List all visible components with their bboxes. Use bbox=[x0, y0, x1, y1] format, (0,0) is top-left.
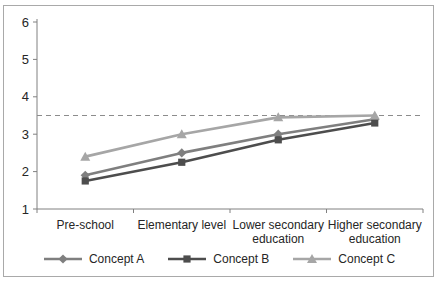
chart-frame: 123456Pre-schoolElementary levelLower se… bbox=[3, 5, 434, 277]
y-tick-label: 6 bbox=[22, 15, 29, 30]
diamond-marker bbox=[177, 148, 186, 157]
legend-label-concept-a: Concept A bbox=[89, 252, 144, 266]
square-marker bbox=[82, 177, 89, 184]
x-category-label: Pre-school bbox=[57, 218, 114, 232]
square-legend-marker bbox=[184, 255, 191, 262]
series-concept-b bbox=[82, 119, 379, 184]
x-category-label: Elementary level bbox=[137, 218, 226, 232]
y-tick-label: 4 bbox=[22, 89, 29, 104]
square-marker bbox=[178, 159, 185, 166]
square-marker bbox=[275, 136, 282, 143]
diamond-legend-marker bbox=[58, 254, 67, 263]
concept-a-line-marker-icon bbox=[42, 253, 84, 265]
concept-b-line-marker-icon bbox=[166, 253, 208, 265]
legend-item-concept-a: Concept A bbox=[42, 252, 144, 266]
x-category-label: Lower secondaryeducation bbox=[233, 218, 324, 246]
square-marker bbox=[371, 119, 378, 126]
legend-item-concept-c: Concept C bbox=[291, 252, 395, 266]
line-chart-canvas: 123456Pre-schoolElementary levelLower se… bbox=[4, 6, 435, 276]
legend-label-concept-c: Concept C bbox=[338, 252, 395, 266]
x-category-label: Higher secondaryeducation bbox=[328, 218, 422, 246]
y-tick-label: 3 bbox=[22, 127, 29, 142]
y-tick-label: 1 bbox=[22, 202, 29, 217]
concept-c-line-marker-icon bbox=[291, 253, 333, 265]
legend-item-concept-b: Concept B bbox=[166, 252, 269, 266]
y-tick-label: 2 bbox=[22, 164, 29, 179]
axes: 123456Pre-schoolElementary levelLower se… bbox=[22, 15, 423, 247]
y-tick-label: 5 bbox=[22, 52, 29, 67]
series-concept-c bbox=[80, 111, 380, 161]
legend-label-concept-b: Concept B bbox=[213, 252, 269, 266]
chart-legend: Concept A Concept B Concept C bbox=[4, 252, 433, 266]
